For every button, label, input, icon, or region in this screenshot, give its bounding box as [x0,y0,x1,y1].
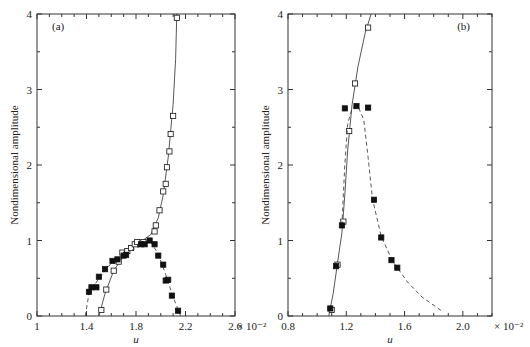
x-tick-label: 2.2 [179,320,193,332]
filled-square-marker [354,104,359,109]
x-tick-label: 1.8 [129,320,143,332]
y-tick-label: 3 [27,84,33,96]
x-tick-label: 1.2 [339,320,353,332]
filled-square-marker [371,197,376,202]
filled-square-marker [342,106,347,111]
chart-figure: 11.41.82.22.6× 10⁻²01234uNondimensional … [0,0,530,347]
filled-square-marker [166,277,171,282]
x-tick-label: 0.8 [281,320,295,332]
filled-square-marker [124,252,129,257]
y-tick-label: 2 [278,159,284,171]
filled-square-marker [115,257,120,262]
y-tick-label: 4 [278,8,284,20]
filled-square-marker [366,105,371,110]
open-square-marker [168,131,173,136]
open-square-marker [153,223,158,228]
filled-square-marker [169,293,174,298]
filled-square-marker [389,258,394,263]
filled-square-marker [94,285,99,290]
open-square-marker [111,268,116,273]
y-axis-label: Nondimensional amplitude [259,105,271,225]
x-axis-label: u [387,333,393,345]
open-square-marker [352,81,357,86]
open-square-marker [174,15,179,20]
open-square-marker [157,208,162,213]
x-multiplier: × 10⁻² [494,320,524,332]
axes-frame [288,14,492,316]
x-tick-label: 1 [34,320,40,332]
filled-square-marker [175,308,180,313]
open-square-marker [167,149,172,154]
x-tick-label: 2.0 [456,320,470,332]
filled-square-marker [147,238,152,243]
solid-fit-curve [329,14,371,316]
panel-a: 11.41.82.22.6× 10⁻²01234uNondimensional … [8,8,267,345]
panel-label: (b) [457,20,470,33]
filled-square-marker [152,242,157,247]
dashed-fit-curve [342,106,443,311]
open-square-marker [366,25,371,30]
filled-square-marker [379,235,384,240]
filled-square-marker [339,223,344,228]
filled-square-marker [156,253,161,258]
filled-square-marker [328,306,333,311]
panel-b: 0.81.21.62.0× 10⁻²01234uNondimensional a… [259,8,524,345]
y-tick-label: 1 [278,235,284,247]
y-tick-label: 4 [27,8,33,20]
filled-square-marker [161,262,166,267]
open-square-marker [163,181,168,186]
panel-label: (a) [52,20,65,33]
filled-square-marker [102,267,107,272]
filled-square-marker [96,274,101,279]
y-tick-label: 3 [278,84,284,96]
x-tick-label: 1.4 [80,320,94,332]
y-axis-label: Nondimensional amplitude [8,105,20,225]
axes-frame [37,14,235,316]
filled-square-marker [110,258,115,263]
x-axis-label: u [133,333,139,345]
open-square-marker [164,165,169,170]
y-tick-label: 1 [27,235,33,247]
y-tick-label: 2 [27,159,33,171]
open-square-marker [161,189,166,194]
open-square-marker [104,287,109,292]
filled-square-marker [89,285,94,290]
y-tick-label: 0 [278,310,284,322]
open-square-marker [171,113,176,118]
filled-square-marker [333,264,338,269]
x-multiplier: × 10⁻² [237,320,267,332]
open-square-marker [152,229,157,234]
y-tick-label: 0 [27,310,33,322]
open-square-marker [99,307,104,312]
filled-square-marker [142,242,147,247]
x-tick-label: 1.6 [398,320,412,332]
filled-square-marker [395,265,400,270]
